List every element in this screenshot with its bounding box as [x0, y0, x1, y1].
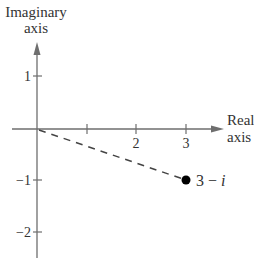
x-tick-label-3: 3: [183, 136, 190, 151]
vector-line: [39, 130, 183, 179]
y-tick-label-neg2: −2: [16, 225, 31, 240]
point-3-minus-i: [182, 176, 191, 185]
y-tick-label-neg1: −1: [16, 173, 31, 188]
x-axis-label-2: axis: [227, 129, 251, 145]
y-tick-label-1: 1: [24, 69, 31, 84]
complex-plane-diagram: Imaginary axis Real axis 2 3 1 −1 −2 3 −…: [0, 0, 254, 276]
y-axis-label-2: axis: [24, 20, 48, 36]
y-axis-label: Imaginary: [5, 4, 67, 20]
x-tick-label-2: 2: [133, 136, 140, 151]
x-axis-label: Real: [227, 112, 254, 128]
imaginary-axis-arrow-icon: [34, 42, 41, 55]
point-label: 3 − i: [196, 172, 225, 189]
real-axis-arrow-icon: [211, 126, 224, 133]
